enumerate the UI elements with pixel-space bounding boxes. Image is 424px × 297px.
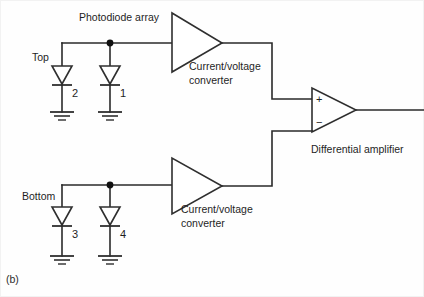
diode-4-triangle bbox=[100, 207, 120, 225]
cv-converter-top-label-line1: Current/voltage bbox=[189, 60, 261, 72]
diode-3-number: 3 bbox=[72, 228, 78, 240]
cv-converter-bottom-output-wire bbox=[222, 131, 312, 186]
diode-4-number: 4 bbox=[120, 228, 126, 240]
diode-1-number: 1 bbox=[120, 87, 126, 99]
amplifier-minus-input-label: − bbox=[316, 116, 322, 128]
cv-converter-top-label-line2: converter bbox=[189, 74, 233, 86]
cv-converter-bottom-label-line1: Current/voltage bbox=[181, 203, 253, 215]
differential-amplifier-label: Differential amplifier bbox=[311, 143, 404, 155]
top-junction-dot bbox=[107, 40, 114, 47]
amplifier-plus-input-label: + bbox=[316, 93, 322, 105]
ground-symbol-diode-1 bbox=[98, 112, 122, 120]
ground-symbol-diode-4 bbox=[98, 256, 122, 264]
panel-label: (b) bbox=[6, 273, 19, 285]
ground-symbol-diode-3 bbox=[50, 256, 74, 264]
diode-1-triangle bbox=[100, 66, 120, 84]
figure-container: 2 1 + − bbox=[0, 0, 424, 297]
diode-3-triangle bbox=[52, 207, 72, 225]
cv-converter-bottom-label-line2: converter bbox=[181, 217, 225, 229]
bottom-junction-dot bbox=[107, 182, 114, 189]
circuit-diagram: 2 1 + − bbox=[0, 0, 424, 297]
diode-2-triangle bbox=[52, 66, 72, 84]
ground-symbol-diode-2 bbox=[50, 112, 74, 120]
diode-2-number: 2 bbox=[72, 87, 78, 99]
photodiode-array-label: Photodiode array bbox=[79, 11, 160, 23]
top-label: Top bbox=[32, 51, 49, 63]
bottom-label: Bottom bbox=[22, 190, 56, 202]
